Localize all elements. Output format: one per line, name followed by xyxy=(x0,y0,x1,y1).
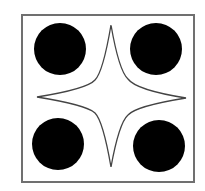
circle-bottom-right xyxy=(133,120,185,172)
circle-top-right xyxy=(130,23,182,75)
circle-bottom-left xyxy=(32,118,84,170)
figure-canvas xyxy=(0,0,205,191)
circle-top-left xyxy=(34,23,86,75)
